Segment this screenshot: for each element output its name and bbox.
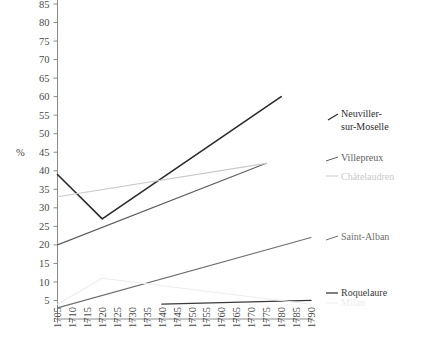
y-tick-label-35: 35 xyxy=(39,184,50,195)
series-label-line: Saint-Alban xyxy=(341,231,389,242)
x-tick-label-1715: 1715 xyxy=(82,307,93,328)
x-tick-label-1775: 1775 xyxy=(261,307,272,328)
y-tick-label-65: 65 xyxy=(39,73,50,84)
x-tick-label-1770: 1770 xyxy=(246,307,257,328)
y-tick-label-5: 5 xyxy=(44,295,49,306)
y-tick-label-20: 20 xyxy=(39,239,50,250)
x-tick-label-1760: 1760 xyxy=(216,307,227,328)
x-tick-label-1710: 1710 xyxy=(67,307,78,328)
y-tick-label-25: 25 xyxy=(39,221,50,232)
series-line-milan xyxy=(58,278,312,304)
x-tick-label-1750: 1750 xyxy=(187,307,198,328)
y-tick-label-40: 40 xyxy=(39,165,50,176)
series-label-neuviller-sur-moselle: Neuviller-sur-Moselle xyxy=(341,108,389,132)
series-label-line: sur-Moselle xyxy=(341,121,389,132)
y-axis-title: % xyxy=(16,147,25,158)
y-tick-label-70: 70 xyxy=(39,54,50,65)
y-tick-label-55: 55 xyxy=(39,110,50,121)
series-label-line: Milan xyxy=(341,297,365,308)
chart-container: 510152025303540455055606570758085%170517… xyxy=(0,0,423,362)
series-label-milan: Milan xyxy=(341,297,365,308)
y-tick-label-15: 15 xyxy=(39,258,50,269)
x-tick-label-1735: 1735 xyxy=(142,307,153,328)
series-label-line: Châtelaudren xyxy=(341,171,394,182)
series-label-villepreux: Villepreux xyxy=(341,152,383,163)
series-label-line: Neuviller- xyxy=(341,108,382,119)
x-tick-label-1740: 1740 xyxy=(157,307,168,328)
series-line-ch-telaudren xyxy=(58,163,267,196)
x-tick-label-1720: 1720 xyxy=(97,307,108,328)
x-tick-label-1730: 1730 xyxy=(127,307,138,328)
x-tick-label-1755: 1755 xyxy=(201,307,212,328)
series-line-saint-alban xyxy=(58,237,312,307)
y-tick-label-50: 50 xyxy=(39,128,50,139)
y-tick-label-85: 85 xyxy=(39,0,50,10)
x-tick-label-1725: 1725 xyxy=(112,307,123,328)
y-tick-label-60: 60 xyxy=(39,91,50,102)
axis-lines xyxy=(58,0,314,319)
line-chart: 510152025303540455055606570758085%170517… xyxy=(0,0,423,362)
series-line-villepreux xyxy=(58,163,267,245)
y-tick-label-45: 45 xyxy=(39,147,50,158)
x-tick-label-1765: 1765 xyxy=(231,307,242,328)
y-tick-label-10: 10 xyxy=(39,277,50,288)
y-tick-label-30: 30 xyxy=(39,202,50,213)
x-tick-label-1705: 1705 xyxy=(52,307,63,328)
series-label-saint-alban: Saint-Alban xyxy=(341,231,389,242)
series-leader-saint-alban xyxy=(326,236,338,240)
series-leader-neuviller-sur-moselle xyxy=(328,114,338,120)
x-tick-label-1745: 1745 xyxy=(172,307,183,328)
series-leader-villepreux xyxy=(326,157,338,161)
series-line-neuviller-sur-moselle xyxy=(58,97,282,219)
y-tick-label-75: 75 xyxy=(39,36,50,47)
y-tick-label-80: 80 xyxy=(39,17,50,28)
series-label-ch-telaudren: Châtelaudren xyxy=(341,171,394,182)
x-tick-label-1780: 1780 xyxy=(276,307,287,328)
x-tick-label-1785: 1785 xyxy=(291,307,302,328)
x-tick-label-1790: 1790 xyxy=(306,307,317,328)
series-label-line: Villepreux xyxy=(341,152,383,163)
